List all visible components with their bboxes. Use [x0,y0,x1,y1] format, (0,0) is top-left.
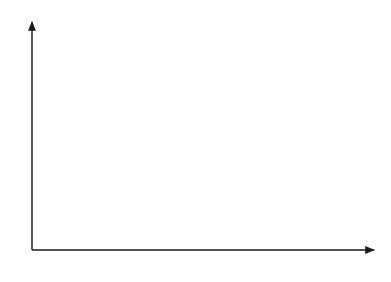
axes [32,22,374,250]
is-lm-bp-diagram [0,0,391,282]
